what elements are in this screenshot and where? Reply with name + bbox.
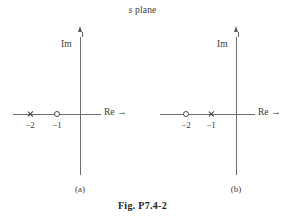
cross-icon xyxy=(208,111,215,118)
sub-caption-a: (a) xyxy=(62,184,98,194)
cross-icon xyxy=(27,111,34,118)
real-axis-label-b: Re → xyxy=(258,107,280,117)
imaginary-axis-arrow-icon xyxy=(234,26,238,32)
circle-icon xyxy=(183,111,189,117)
imaginary-axis-a xyxy=(80,37,81,175)
pole-zero-plot-a: Im Re → −2 −1 (a) xyxy=(0,0,145,221)
imaginary-axis-arrow-icon xyxy=(78,26,82,32)
real-axis-label-a: Re → xyxy=(104,107,126,117)
pole-label-b-minus1: −1 xyxy=(206,120,216,130)
circle-icon xyxy=(54,111,60,117)
imaginary-axis-label-b: Im xyxy=(217,39,228,49)
zero-label-a-minus1: −1 xyxy=(52,120,62,130)
sub-caption-b: (b) xyxy=(218,184,254,194)
pole-label-a-minus2: −2 xyxy=(25,120,35,130)
figure-p7-4-2: s plane Im Re → −2 −1 (a) Im Re → −2 xyxy=(0,0,285,221)
imaginary-axis-label-a: Im xyxy=(61,39,72,49)
imaginary-axis-b xyxy=(236,37,237,175)
figure-caption: Fig. P7.4-2 xyxy=(0,200,285,211)
zero-label-b-minus2: −2 xyxy=(181,120,191,130)
pole-zero-plot-b: Im Re → −2 −1 (b) xyxy=(150,0,285,221)
